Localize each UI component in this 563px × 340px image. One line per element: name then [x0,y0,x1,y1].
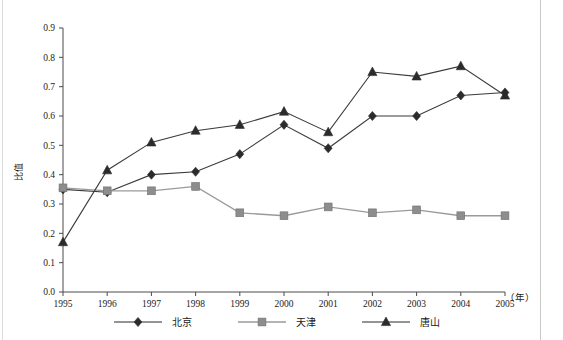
chart-page: 0.00.10.20.30.40.50.60.70.80.9 199519961… [0,0,563,340]
data-point [369,209,377,217]
data-point [236,150,244,159]
x-axis-tick-label: 2001 [319,299,338,309]
y-axis-tick-label: 0.7 [43,82,55,92]
data-point [58,237,67,246]
triangle-marker [381,317,390,326]
x-axis-unit-label: （年） [505,292,535,303]
data-point [192,183,200,191]
line-chart: 0.00.10.20.30.40.50.60.70.80.9 199519961… [0,0,540,340]
y-axis-tick-label: 0.4 [43,170,55,180]
square-marker [258,318,266,326]
data-point [279,107,288,116]
data-series-2 [59,183,509,220]
data-series-1 [59,88,509,197]
x-axis-tick-label: 1997 [142,299,161,309]
x-axis-tick-label: 1995 [54,299,73,309]
data-point [324,203,332,211]
data-point [413,206,421,214]
y-axis-tick-label: 0.9 [43,23,55,33]
x-axis-tick-label: 1996 [98,299,117,309]
data-point [501,212,509,220]
legend-item-天津[interactable]: 天津 [238,317,316,328]
x-axis-tick-label: 2004 [451,299,470,309]
data-series-group [58,61,509,246]
x-axis-tick-label: 2003 [407,299,426,309]
data-point [103,165,112,174]
data-point [103,187,111,195]
data-point [147,170,155,179]
chart-canvas: 0.00.10.20.30.40.50.60.70.80.9 199519961… [0,0,540,340]
data-point [324,144,332,153]
series-line [63,186,505,215]
data-point [456,61,465,70]
data-point [192,167,200,176]
data-point [280,212,288,220]
data-point [59,184,67,192]
y-axis-tick-label: 0.1 [43,258,55,268]
y-axis-tick-label: 0.5 [43,141,55,151]
data-point [457,91,465,100]
page-border-right [540,0,541,340]
x-axis-tick-label: 1999 [230,299,249,309]
data-point [148,187,156,195]
data-point [368,111,376,120]
y-axis-tick-label: 0.3 [43,199,55,209]
y-axis-tick-label: 0.2 [43,229,55,239]
legend-label: 天津 [296,317,316,328]
x-axis: 1995199619971998199920002001200220032004… [54,292,515,309]
x-axis-tick-label: 2002 [363,299,382,309]
data-point [368,67,377,76]
data-point [236,209,244,217]
y-axis-tick-label: 0.0 [43,287,55,297]
x-axis-tick-label: 1998 [186,299,205,309]
legend-item-北京[interactable]: 北京 [114,316,192,328]
x-axis-tick-label: 2000 [275,299,294,309]
y-axis: 0.00.10.20.30.40.50.60.70.80.9 [43,23,63,297]
chart-legend: 北京天津唐山 [114,316,440,328]
legend-label: 北京 [172,316,192,328]
y-axis-tick-label: 0.8 [43,53,55,63]
data-point [413,111,421,120]
legend-label: 唐山 [420,316,440,328]
data-point [280,120,288,129]
y-axis-tick-label: 0.6 [43,111,55,121]
diamond-marker [134,317,142,326]
legend-item-唐山[interactable]: 唐山 [362,316,440,328]
data-point [457,212,465,220]
y-axis-title: 比值 [13,163,24,181]
